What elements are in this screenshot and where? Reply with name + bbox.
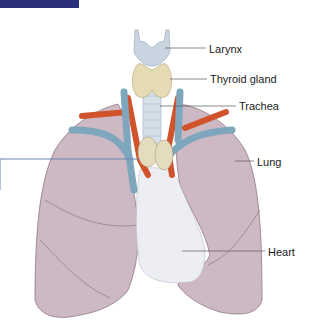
label-larynx: Larynx xyxy=(209,43,242,55)
thymus-right-lobe xyxy=(155,140,173,170)
right-vein xyxy=(178,92,180,140)
label-thyroid-gland: Thyroid gland xyxy=(210,73,277,85)
label-lung: Lung xyxy=(257,156,281,168)
label-heart: Heart xyxy=(268,246,295,258)
left-lung xyxy=(35,104,138,317)
label-trachea: Trachea xyxy=(239,100,279,112)
left-subclavian-artery xyxy=(82,112,128,116)
larynx xyxy=(134,30,170,66)
